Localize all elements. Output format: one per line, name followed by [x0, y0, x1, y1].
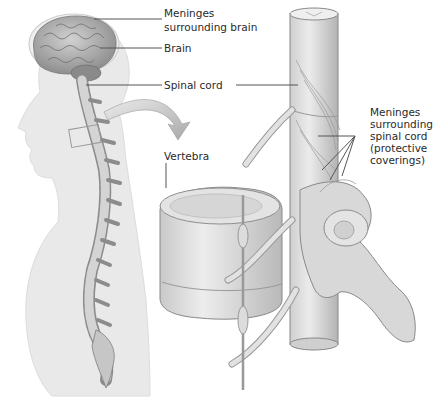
anatomy-diagram: Meninges surrounding brain Brain Spinal …	[0, 0, 445, 403]
label-meninges-cord-line4: (protective	[370, 142, 427, 155]
label-meninges-cord-line5: coverings)	[370, 154, 425, 167]
label-meninges-brain-line1: Meninges	[164, 7, 214, 20]
spinal-cord	[290, 8, 340, 350]
label-brain: Brain	[164, 42, 192, 55]
label-meninges-cord-line2: surrounding	[370, 118, 433, 131]
label-meninges-brain-line2: surrounding brain	[164, 21, 257, 34]
label-spinal-cord: Spinal cord	[164, 79, 223, 92]
label-meninges-cord-line1: Meninges	[370, 106, 420, 119]
label-meninges-cord-line3: spinal cord	[370, 130, 427, 143]
label-vertebra: Vertebra	[164, 150, 209, 163]
